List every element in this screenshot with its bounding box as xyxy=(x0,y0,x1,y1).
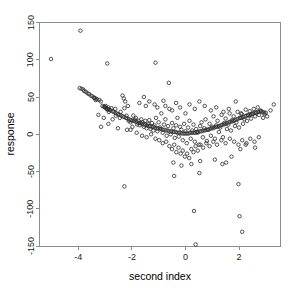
y-tick-label: 50 xyxy=(26,92,36,102)
figure-background xyxy=(0,0,293,288)
x-tick-label: -2 xyxy=(128,252,136,262)
y-tick-label: 0 xyxy=(26,132,36,137)
scatter-plot-figure: True index vs Response -150-100-50050100… xyxy=(0,0,293,288)
x-tick-label: -4 xyxy=(74,252,82,262)
y-tick-label: -50 xyxy=(26,165,36,178)
y-axis-label: response xyxy=(4,112,16,155)
plot-canvas: -150-100-50050100150 -4-202 response sec… xyxy=(0,0,293,288)
y-tick-label: -100 xyxy=(26,200,36,218)
x-axis-label: second index xyxy=(129,270,192,282)
x-tick-label: 2 xyxy=(236,252,241,262)
y-tick-label: 150 xyxy=(26,15,36,30)
y-tick-label: -150 xyxy=(26,237,36,255)
x-tick-label: 0 xyxy=(183,252,188,262)
y-tick-label: 100 xyxy=(26,52,36,67)
